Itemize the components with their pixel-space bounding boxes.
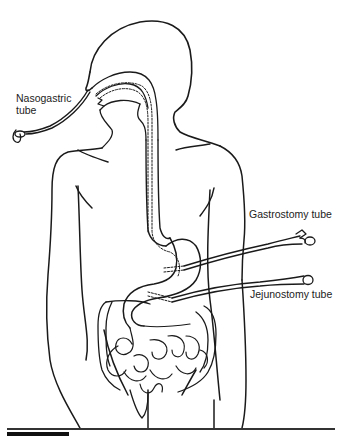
g-connector-icon <box>296 230 315 245</box>
j-connector-icon <box>303 276 313 285</box>
nasogastric-tube-label: Nasogastric tube <box>16 92 76 116</box>
bottom-rule <box>7 428 335 430</box>
jejunostomy-tube-label: Jejunostomy tube <box>250 288 332 300</box>
head-outline <box>86 21 220 146</box>
ng-connector-icon <box>13 130 25 142</box>
gastrostomy-tube-label: Gastrostomy tube <box>249 208 332 220</box>
esophagus <box>146 140 170 246</box>
bottom-rule-bar <box>7 432 69 436</box>
gastrostomy-tube <box>164 236 302 272</box>
stomach <box>123 238 200 328</box>
